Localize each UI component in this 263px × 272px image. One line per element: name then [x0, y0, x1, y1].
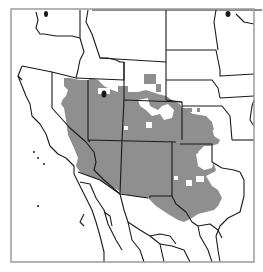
lake-icon	[44, 11, 48, 17]
map-figure	[0, 0, 263, 272]
map-canvas	[0, 0, 263, 272]
lake-of-the-woods-icon	[226, 11, 231, 17]
great-salt-lake-icon	[102, 91, 107, 98]
shaded-region	[52, 74, 222, 222]
